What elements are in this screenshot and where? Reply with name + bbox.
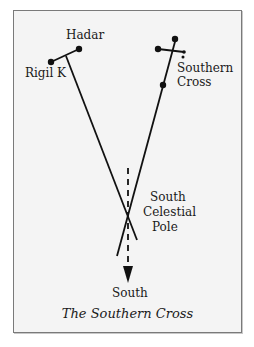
star-hadar — [76, 46, 82, 52]
star-delta-crucis — [155, 46, 161, 52]
star-rigil-k — [48, 59, 54, 65]
label-hadar: Hadar — [66, 28, 104, 42]
label-south: South — [112, 286, 148, 300]
south-arrow-icon — [123, 266, 133, 283]
label-southern: Southern — [177, 61, 233, 75]
label-pole-south: South — [150, 190, 186, 204]
label-cross: Cross — [177, 75, 211, 89]
star-epsilon-crucis — [182, 56, 185, 59]
label-rigil-k: Rigil K — [25, 66, 66, 80]
label-pole-celestial: Celestial — [143, 205, 196, 219]
cross-crossbar — [158, 49, 184, 52]
pointer-stars-connector — [51, 49, 79, 62]
star-gacrux — [172, 36, 178, 42]
pointer-bisector-line — [66, 56, 137, 240]
star-mimosa — [182, 50, 186, 54]
diagram-caption: The Southern Cross — [13, 306, 242, 321]
star-acrux — [160, 82, 166, 88]
label-pole-pole: Pole — [152, 220, 178, 234]
